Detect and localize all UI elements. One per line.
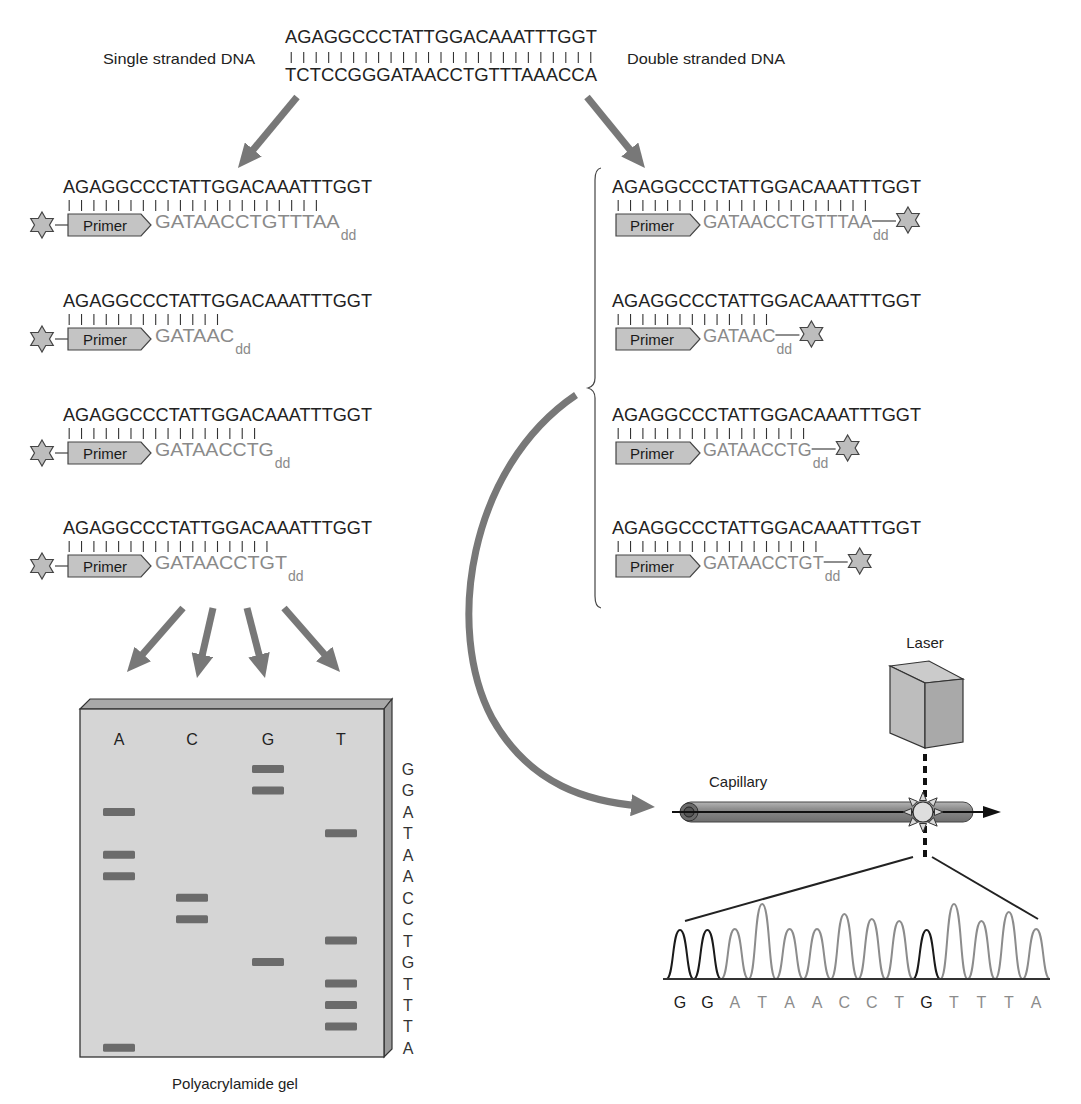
dideoxy-terminator: dd — [235, 341, 251, 357]
lane-label-a: A — [114, 731, 125, 748]
gel-band-g — [252, 786, 284, 794]
gel-caption: Polyacrylamide gel — [172, 1075, 298, 1092]
zoom-line-left — [685, 857, 913, 921]
read-base: A — [403, 868, 414, 885]
base-call: A — [784, 994, 795, 1011]
base-pair-bonds — [69, 314, 217, 325]
base-pair-bonds — [618, 541, 816, 552]
base-pair-bonds — [618, 200, 865, 211]
gel-band-a — [103, 851, 135, 859]
trace-peak-t — [995, 912, 1022, 979]
read-base: C — [402, 911, 414, 928]
trace-peak-t — [886, 921, 913, 979]
base-call: C — [866, 994, 878, 1011]
template-strand: AGAGGCCCTATTGGACAAATTTGGT — [612, 177, 921, 197]
dideoxy-sequencing-diagram: Single stranded DNA Double stranded DNA … — [0, 0, 1081, 1104]
ds-reaction-row: AGAGGCCCTATTGGACAAATTTGGT Primer GATAACC… — [612, 177, 921, 243]
base-pair-bonds — [291, 52, 591, 63]
read-base: T — [403, 933, 413, 950]
primer-label: Primer — [83, 558, 127, 575]
primer-label: Primer — [630, 558, 674, 575]
gel-band-a — [103, 808, 135, 816]
gel-band-g — [252, 958, 284, 966]
read-base: G — [402, 761, 414, 778]
trace-peak-c — [858, 919, 885, 979]
ds-reaction-row: AGAGGCCCTATTGGACAAATTTGGT Primer GATAAC … — [612, 291, 921, 357]
laser-label: Laser — [906, 634, 944, 651]
read-base: T — [403, 1018, 413, 1035]
base-call: G — [674, 994, 686, 1011]
chromatogram-peaks — [666, 904, 1050, 979]
trace-peak-g — [666, 930, 693, 979]
trace-peak-t — [968, 921, 995, 979]
base-call: T — [757, 994, 767, 1011]
read-base: T — [403, 997, 413, 1014]
dideoxy-terminator: dd — [873, 227, 889, 243]
ss-reaction-row: AGAGGCCCTATTGGACAAATTTGGT Primer GATAACC… — [31, 405, 372, 471]
trace-peak-g — [694, 930, 721, 979]
fluorescent-dye-star-icon — [848, 548, 871, 574]
base-call: A — [729, 994, 740, 1011]
extension-strand: GATAACCTGT — [155, 553, 287, 573]
fluorescence-spot-icon — [903, 792, 943, 832]
double-stranded-label: Double stranded DNA — [627, 50, 785, 67]
single-stranded-panel: AGAGGCCCTATTGGACAAATTTGGT Primer GATAACC… — [31, 177, 372, 584]
trace-peak-t — [940, 904, 967, 979]
arrow-to-lane-g-icon — [247, 608, 262, 664]
read-base: A — [403, 1040, 414, 1057]
gel-band-t — [325, 980, 357, 988]
read-base: G — [402, 782, 414, 799]
gel-band-a — [103, 1044, 135, 1052]
gel-side-face — [384, 699, 392, 1057]
trace-peak-a — [776, 929, 803, 979]
fluorescent-dye-star-icon — [836, 435, 859, 461]
base-call: C — [839, 994, 851, 1011]
gel-top-face — [80, 699, 392, 709]
primer-label: Primer — [83, 331, 127, 348]
base-call: T — [1004, 994, 1014, 1011]
template-strand: AGAGGCCCTATTGGACAAATTTGGT — [63, 518, 372, 538]
trace-peak-a — [1023, 929, 1050, 979]
primer-label: Primer — [83, 445, 127, 462]
base-call: A — [812, 994, 823, 1011]
ss-reaction-row: AGAGGCCCTATTGGACAAATTTGGT Primer GATAAC … — [31, 291, 372, 357]
read-base: T — [403, 976, 413, 993]
fluorescent-dye-star-icon — [800, 321, 823, 347]
single-stranded-label: Single stranded DNA — [103, 50, 255, 67]
arrow-to-capillary-icon — [469, 395, 641, 806]
top-strand: AGAGGCCCTATTGGACAAATTTGGT — [285, 27, 597, 47]
extension-strand: GATAAC — [703, 326, 775, 346]
read-base: A — [403, 847, 414, 864]
template-duplex: Single stranded DNA Double stranded DNA … — [103, 27, 785, 85]
trace-peak-a — [721, 929, 748, 979]
primer-label: Primer — [83, 217, 127, 234]
ds-reaction-row: AGAGGCCCTATTGGACAAATTTGGT Primer GATAACC… — [612, 518, 921, 584]
fluorescent-dye-star-icon — [897, 207, 920, 233]
base-call: T — [949, 994, 959, 1011]
base-call: A — [1031, 994, 1042, 1011]
dideoxy-terminator: dd — [813, 455, 829, 471]
dideoxy-terminator: dd — [341, 227, 357, 243]
template-strand: AGAGGCCCTATTGGACAAATTTGGT — [63, 405, 372, 425]
zoom-line-right — [932, 857, 1038, 919]
gel-band-a — [103, 872, 135, 880]
polyacrylamide-gel: A C G T GGATAACCTGTTTA Polyacrylamide ge… — [80, 699, 414, 1092]
lane-label-g: G — [262, 731, 274, 748]
capillary-system: Laser Capillary — [672, 634, 1001, 858]
dideoxy-terminator: dd — [825, 568, 841, 584]
arrow-to-double-stranded-icon — [587, 97, 636, 157]
chromatogram-base-calls: GGATAACCTGTTTA — [674, 994, 1042, 1011]
lane-label-c: C — [186, 731, 198, 748]
base-pair-bonds — [618, 314, 766, 325]
gel-band-c — [176, 915, 208, 923]
base-call: T — [894, 994, 904, 1011]
lane-arrows — [136, 608, 331, 664]
flow-arrow-icon — [983, 806, 1001, 818]
template-strand: AGAGGCCCTATTGGACAAATTTGGT — [612, 405, 921, 425]
fluorescent-dye-star-icon — [31, 326, 54, 352]
double-stranded-panel: AGAGGCCCTATTGGACAAATTTGGT Primer GATAACC… — [588, 168, 921, 608]
lane-label-t: T — [336, 731, 346, 748]
gel-band-t — [325, 829, 357, 837]
trace-peak-g — [913, 930, 940, 979]
extension-strand: GATAAC — [155, 326, 234, 346]
